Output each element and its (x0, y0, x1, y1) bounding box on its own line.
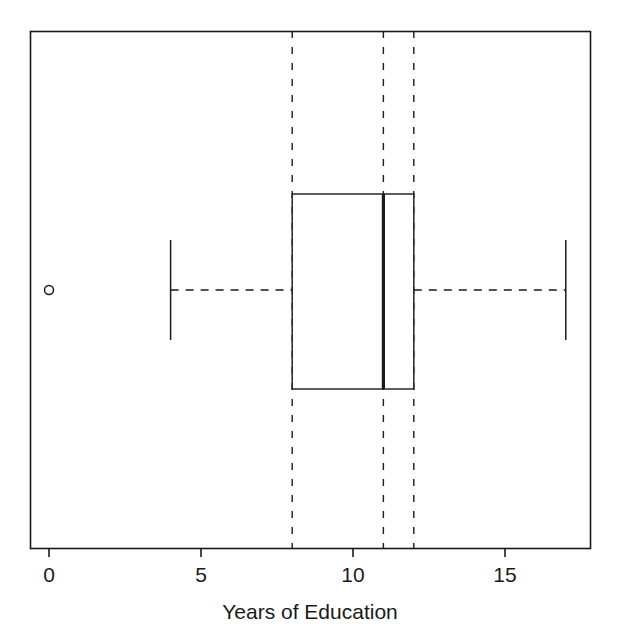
x-tick-label-0: 0 (43, 563, 55, 587)
outlier-point (45, 286, 54, 295)
plot-canvas (0, 0, 620, 637)
x-tick-label-5: 5 (195, 563, 207, 587)
x-tick-label-15: 15 (493, 563, 516, 587)
box-iqr (292, 194, 414, 389)
x-axis-title: Years of Education (222, 600, 398, 624)
boxplot-figure: 051015 Years of Education (0, 0, 620, 637)
x-tick-label-10: 10 (341, 563, 364, 587)
